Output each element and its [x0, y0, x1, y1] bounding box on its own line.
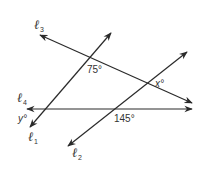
line-l1: [30, 33, 111, 127]
svg-text:1: 1: [34, 138, 38, 145]
svg-text:2: 2: [78, 154, 82, 161]
label-l3: ℓ 3: [34, 17, 44, 33]
angle-x: x°: [154, 78, 164, 89]
angle-75: 75°: [87, 64, 102, 75]
line-l3: [40, 35, 192, 103]
angle-y: y°: [17, 113, 27, 124]
label-l1: ℓ 1: [28, 129, 38, 145]
svg-text:3: 3: [40, 26, 44, 33]
geometry-diagram: ℓ 3 ℓ 4 ℓ 1 ℓ 2 75° x° y° 145°: [0, 0, 202, 173]
label-l4: ℓ 4: [17, 90, 27, 106]
svg-text:4: 4: [23, 99, 27, 106]
line-l2: [68, 52, 187, 146]
label-l2: ℓ 2: [72, 145, 82, 161]
angle-145: 145°: [114, 113, 135, 124]
